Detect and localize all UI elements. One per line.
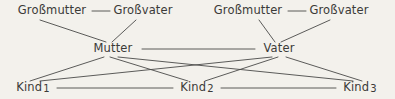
node-vater[interactable]: Vater bbox=[260, 43, 297, 55]
edge-descent bbox=[259, 20, 275, 42]
node-mutter[interactable]: Mutter bbox=[91, 43, 136, 55]
node-kind-3[interactable]: Kind3 bbox=[340, 82, 379, 94]
node-kind-1-label: Kind bbox=[16, 80, 42, 94]
node-grossvater-paternal[interactable]: Großvater bbox=[306, 5, 371, 17]
node-kind-1[interactable]: Kind1 bbox=[13, 82, 52, 94]
node-kind-3-label: Kind bbox=[343, 80, 369, 94]
node-grossmutter-maternal[interactable]: Großmutter bbox=[15, 5, 89, 17]
node-kind-2[interactable]: Kind2 bbox=[177, 82, 216, 94]
edge-descent bbox=[286, 57, 362, 81]
edge-descent bbox=[281, 20, 330, 42]
node-grossvater-maternal[interactable]: Großvater bbox=[110, 5, 175, 17]
node-kind-1-number: 1 bbox=[42, 83, 50, 94]
edge-descent bbox=[112, 20, 136, 42]
node-kind-2-number: 2 bbox=[206, 83, 214, 94]
node-kind-3-number: 3 bbox=[369, 83, 377, 94]
family-tree-diagram: Großmutter Großvater Großmutter Großvate… bbox=[0, 0, 395, 99]
node-kind-2-label: Kind bbox=[180, 80, 206, 94]
node-grossmutter-paternal[interactable]: Großmutter bbox=[211, 5, 285, 17]
edge-descent bbox=[30, 57, 104, 81]
edge-descent bbox=[40, 20, 106, 42]
